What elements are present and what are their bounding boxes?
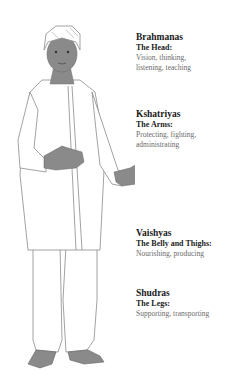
- caste-brahmanas: Brahmanas The Head: Vision, thinking, li…: [136, 32, 227, 73]
- role-line: administrating: [136, 140, 227, 150]
- body-part-label: The Legs:: [136, 299, 227, 309]
- body-part-label: The Arms:: [136, 120, 227, 130]
- role-line: Protecting, fighting,: [136, 130, 227, 140]
- right-eye: [67, 51, 69, 53]
- caste-name: Brahmanas: [136, 32, 227, 43]
- left-eye: [55, 51, 57, 53]
- standing-figure-illustration: [0, 0, 135, 377]
- role-line: listening, teaching: [136, 63, 227, 73]
- caste-kshatriyas: Kshatriyas The Arms: Protecting, fightin…: [136, 109, 227, 150]
- role-line: Vision, thinking,: [136, 53, 227, 63]
- role-line: Supporting, transporting: [136, 309, 227, 319]
- role-line: Nourishing, producing: [136, 249, 227, 259]
- body-part-label: The Head:: [136, 43, 227, 53]
- caste-name: Shudras: [136, 288, 227, 299]
- body-part-label: The Belly and Thighs:: [136, 239, 227, 249]
- feet: [28, 350, 104, 368]
- caste-vaishyas: Vaishyas The Belly and Thighs: Nourishin…: [136, 228, 227, 259]
- caste-name: Kshatriyas: [136, 109, 227, 120]
- caste-name: Vaishyas: [136, 228, 227, 239]
- trousers: [33, 245, 97, 352]
- caste-shudras: Shudras The Legs: Supporting, transporti…: [136, 288, 227, 319]
